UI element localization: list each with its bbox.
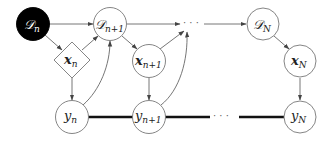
edge-Dn1-xn1 [122,36,137,49]
edge-xn-Dn1 [82,36,98,50]
edge-yn1-dots [161,32,187,105]
dots-bottom: · · · [213,110,229,121]
dots-top: · · · [183,17,199,28]
edge-Dn-xn [45,35,62,50]
graphical-model-diagram: 𝒟n 𝒟n+1 𝒟N xn xn+1 xN yn yn+1 yN · · · ·… [0,0,332,143]
nodes [17,8,317,134]
edge-yn-Dn1 [83,41,110,105]
edge-DN-xN [274,36,289,49]
edge-xn1-dots [160,31,184,49]
